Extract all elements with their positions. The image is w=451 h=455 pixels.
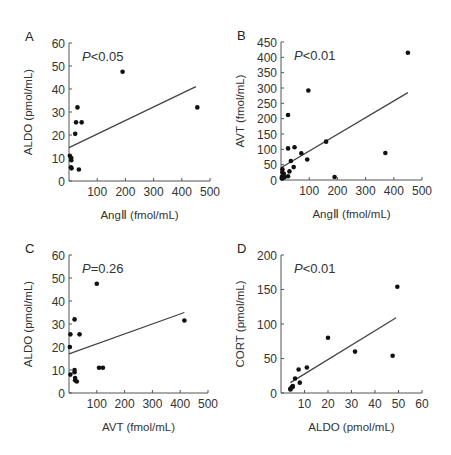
y-tick-label: 100: [257, 143, 277, 157]
panel-label: C: [25, 241, 34, 256]
data-point: [73, 132, 78, 137]
data-point: [324, 139, 329, 144]
y-tick-label: 0: [58, 387, 65, 401]
x-tick-label: 300: [142, 397, 162, 411]
y-tick-label: 350: [257, 66, 277, 80]
data-point: [332, 175, 337, 180]
data-point: [68, 332, 73, 337]
panel-label: D: [237, 241, 246, 256]
x-tick-label: 30: [345, 397, 359, 411]
y-tick-label: 50: [52, 60, 66, 74]
y-tick-label: 150: [257, 283, 277, 297]
y-tick-label: 250: [257, 97, 277, 111]
panel-b: B050100150200250300350400450100200300400…: [234, 28, 432, 220]
y-tick-label: 300: [257, 82, 277, 96]
y-tick-label: 30: [52, 318, 66, 332]
x-axis-label: AVT (fmol/mL): [102, 421, 175, 433]
y-tick-label: 50: [264, 352, 278, 366]
data-point: [77, 167, 82, 172]
x-tick-label: 500: [412, 184, 432, 198]
y-tick-label: 450: [257, 36, 277, 50]
y-tick-label: 60: [52, 37, 66, 51]
x-tick-label: 60: [415, 397, 429, 411]
data-point: [383, 151, 388, 156]
data-point: [353, 349, 358, 354]
panel-a: A0102030405060100200300400500AngⅡ (fmol/…: [22, 29, 220, 221]
data-point: [74, 379, 79, 384]
data-point: [69, 158, 74, 163]
data-point: [395, 284, 400, 289]
y-tick-label: 150: [257, 128, 277, 142]
y-tick-label: 0: [58, 175, 65, 189]
data-point: [72, 317, 77, 322]
y-tick-label: 50: [264, 158, 278, 172]
data-point: [69, 166, 74, 171]
panel-c: C0102030405060100200300400500AVT (fmol/m…: [22, 241, 218, 433]
data-point: [305, 365, 310, 370]
data-point: [326, 336, 331, 341]
data-point: [120, 69, 125, 74]
y-axis-label: ALDO (pmol/mL): [22, 281, 34, 367]
y-axis-label: AVT (fmol/mL): [234, 74, 246, 147]
data-point: [299, 151, 304, 156]
x-tick-label: 300: [144, 185, 164, 199]
data-point: [72, 370, 77, 375]
x-tick-label: 10: [298, 397, 312, 411]
panel-label: B: [237, 28, 246, 43]
y-tick-label: 10: [52, 364, 66, 378]
y-tick-label: 20: [52, 129, 66, 143]
data-point: [101, 365, 106, 370]
data-point: [293, 376, 298, 381]
x-tick-label: 400: [170, 397, 190, 411]
regression-line: [290, 318, 396, 383]
y-tick-label: 200: [257, 112, 277, 126]
data-point: [306, 88, 311, 93]
data-point: [79, 120, 84, 125]
data-point: [282, 175, 287, 180]
data-point: [95, 281, 100, 286]
data-point: [286, 113, 291, 118]
data-point: [287, 169, 292, 174]
y-tick-label: 40: [52, 83, 66, 97]
x-tick-label: 200: [115, 185, 135, 199]
y-axis-label: ALDO (pmol/mL): [22, 69, 34, 155]
y-tick-label: 20: [52, 341, 66, 355]
x-tick-label: 100: [87, 397, 107, 411]
x-tick-label: 300: [356, 184, 376, 198]
x-tick-label: 200: [115, 397, 135, 411]
y-tick-label: 0: [270, 387, 277, 401]
data-point: [296, 367, 301, 372]
x-axis-label: AngⅡ (fmol/mL): [312, 208, 390, 220]
y-tick-label: 50: [52, 272, 66, 286]
data-point: [182, 318, 187, 323]
data-point: [289, 159, 294, 164]
x-axis-label: ALDO (pmol/mL): [308, 421, 394, 433]
y-tick-label: 200: [257, 249, 277, 263]
regression-line: [69, 87, 196, 148]
data-point: [286, 146, 291, 151]
y-tick-label: 40: [52, 295, 66, 309]
figure-canvas: A0102030405060100200300400500AngⅡ (fmol/…: [0, 0, 451, 455]
x-tick-label: 50: [392, 397, 406, 411]
x-tick-label: 400: [172, 185, 192, 199]
data-point: [292, 145, 297, 150]
x-tick-label: 40: [368, 397, 382, 411]
data-point: [74, 120, 79, 125]
data-point: [68, 372, 73, 377]
y-axis-label: CORT (pmol/mL): [234, 280, 246, 367]
y-tick-label: 60: [52, 249, 66, 263]
y-tick-label: 100: [257, 318, 277, 332]
y-tick-label: 30: [52, 106, 66, 120]
p-value-annotation: P<0.01: [294, 261, 336, 276]
panel-d: D050100150200102030405060ALDO (pmol/mL)C…: [234, 241, 429, 433]
p-value-annotation: P=0.26: [82, 261, 124, 276]
x-tick-label: 100: [87, 185, 107, 199]
data-point: [305, 157, 310, 162]
x-tick-label: 100: [299, 184, 319, 198]
regression-line: [69, 313, 184, 354]
panel-label: A: [25, 29, 34, 44]
x-tick-label: 500: [200, 185, 220, 199]
data-point: [75, 105, 80, 110]
data-point: [290, 384, 295, 389]
x-tick-label: 200: [327, 184, 347, 198]
